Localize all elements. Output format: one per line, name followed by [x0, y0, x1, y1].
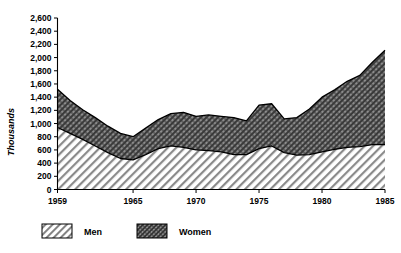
y-tick-label: 1,200 — [30, 105, 52, 115]
x-tick-label: 1985 — [376, 196, 395, 206]
y-tick-label: 600 — [37, 145, 51, 155]
legend-swatch-men — [42, 224, 72, 238]
legend-label-women: Women — [179, 227, 211, 237]
y-axis-tick-labels: 02004006008001,0001,2001,4001,6001,8002,… — [30, 13, 52, 195]
legend-label-men: Men — [84, 227, 102, 237]
y-axis-title: Thousands — [6, 108, 16, 156]
y-tick-label: 1,000 — [30, 119, 52, 129]
y-tick-label: 200 — [37, 171, 51, 181]
y-tick-label: 1,400 — [30, 92, 52, 102]
x-tick-label: 1959 — [48, 196, 67, 206]
area-chart: 02004006008001,0001,2001,4001,6001,8002,… — [0, 0, 401, 253]
x-tick-label: 1975 — [250, 196, 269, 206]
y-tick-label: 2,200 — [30, 39, 52, 49]
y-tick-label: 800 — [37, 132, 51, 142]
x-tick-label: 1980 — [313, 196, 332, 206]
y-tick-label: 400 — [37, 158, 51, 168]
y-tick-label: 1,800 — [30, 66, 52, 76]
legend-swatch-women — [137, 224, 167, 238]
chart-canvas: 02004006008001,0001,2001,4001,6001,8002,… — [0, 0, 401, 253]
stacked-areas — [58, 50, 386, 189]
x-axis-tick-labels: 195919651970197519801985 — [48, 196, 395, 206]
y-tick-label: 2,400 — [30, 26, 52, 36]
y-tick-label: 2,000 — [30, 53, 52, 63]
area-series-women — [58, 50, 386, 159]
y-tick-label: 0 — [47, 185, 52, 195]
y-tick-label: 2,600 — [30, 13, 52, 23]
x-tick-label: 1970 — [187, 196, 206, 206]
chart-legend: Men Women — [42, 224, 211, 238]
y-tick-label: 1,600 — [30, 79, 52, 89]
x-tick-label: 1965 — [124, 196, 143, 206]
